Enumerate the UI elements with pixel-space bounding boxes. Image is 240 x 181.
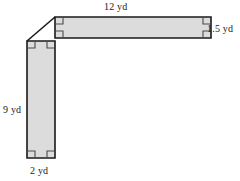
dimension-label-bottom: 2 yd (30, 166, 48, 176)
geometry-figure-canvas: 12 yd 1.5 yd 9 yd 2 yd (0, 0, 240, 181)
geometry-figure-svg (0, 0, 240, 181)
horizontal-bar-shape (55, 17, 211, 38)
dimension-label-right: 1.5 yd (207, 24, 233, 34)
vertical-bar-shape (27, 41, 55, 158)
dimension-label-top: 12 yd (104, 2, 128, 12)
corner-miter-line (27, 17, 55, 41)
dimension-label-left: 9 yd (3, 105, 21, 115)
